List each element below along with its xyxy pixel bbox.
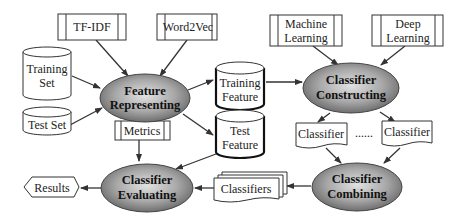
- dl-label-2: Learning: [386, 31, 429, 45]
- evaluating-label-2: Evaluating: [118, 188, 177, 202]
- tfidf-label: TF-IDF: [73, 20, 111, 34]
- results-label: Results: [34, 181, 70, 195]
- feature-representing-label-2: Representing: [110, 98, 181, 112]
- test-feature-label-1: Test: [230, 124, 250, 138]
- classifiers-label: Classifiers: [221, 182, 272, 196]
- tool-tfidf: TF-IDF: [58, 14, 126, 40]
- process-classifier-evaluating: Classifier Evaluating: [101, 164, 193, 212]
- workflow-diagram: TF-IDF Word2Vec Machine Learning Deep Le…: [0, 0, 464, 216]
- tool-word2vec: Word2Vec: [157, 14, 217, 40]
- constructing-label-1: Classifier: [326, 73, 377, 87]
- ellipsis-label: ......: [355, 126, 373, 140]
- doc-classifier-a: Classifier: [296, 123, 347, 148]
- feature-representing-label-1: Feature: [124, 84, 166, 98]
- training-feature-label-1: Training: [220, 76, 261, 90]
- dl-label-1: Deep: [395, 17, 420, 31]
- doc-classifiers-stack: Classifiers: [214, 172, 287, 202]
- evaluating-label-1: Classifier: [122, 173, 173, 187]
- ml-label-2: Learning: [284, 31, 327, 45]
- constructing-label-2: Constructing: [316, 88, 387, 102]
- training-set-label-1: Training: [27, 62, 68, 76]
- tool-metrics: Metrics: [115, 121, 170, 140]
- word2vec-label: Word2Vec: [163, 20, 213, 34]
- process-classifier-constructing: Classifier Constructing: [303, 63, 399, 113]
- training-set-label-2: Set: [39, 76, 55, 90]
- ml-label-1: Machine: [285, 17, 327, 31]
- metrics-label: Metrics: [124, 124, 161, 138]
- process-feature-representing: Feature Representing: [100, 74, 190, 122]
- store-training-set: Training Set: [23, 47, 71, 100]
- tool-machine-learning: Machine Learning: [270, 15, 342, 46]
- combining-label-2: Combining: [327, 187, 387, 201]
- test-set-label: Test Set: [28, 118, 67, 132]
- combining-label-1: Classifier: [332, 172, 383, 186]
- store-test-set: Test Set: [23, 107, 71, 135]
- doc-classifier-b: Classifier: [382, 121, 432, 146]
- tool-deep-learning: Deep Learning: [372, 15, 443, 46]
- training-feature-label-2: Feature: [222, 90, 258, 104]
- store-training-feature: Training Feature: [216, 62, 264, 110]
- store-test-feature: Test Feature: [216, 110, 264, 158]
- output-results: Results: [24, 177, 79, 197]
- classifier-a-label: Classifier: [298, 127, 344, 141]
- classifier-b-label: Classifier: [384, 125, 430, 139]
- process-classifier-combining: Classifier Combining: [312, 163, 402, 211]
- test-feature-label-2: Feature: [222, 138, 258, 152]
